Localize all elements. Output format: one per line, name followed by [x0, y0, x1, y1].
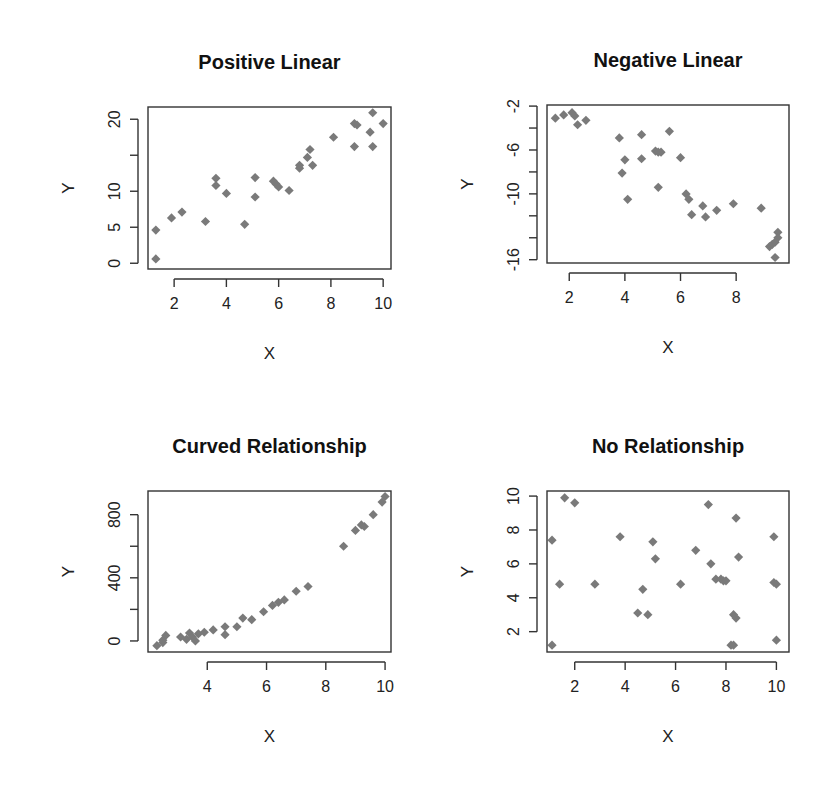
data-point [691, 546, 700, 555]
data-point [251, 192, 260, 201]
panel-title: Positive Linear [198, 51, 340, 73]
data-point [676, 580, 685, 589]
data-point [547, 536, 556, 545]
data-point [251, 173, 260, 182]
data-points [152, 492, 389, 650]
y-tick-label: 0 [106, 259, 123, 268]
y-tick-label: -2 [505, 99, 522, 113]
x-tick-label: 10 [376, 678, 394, 695]
data-point [177, 208, 186, 217]
x-tick-label: 2 [170, 295, 179, 312]
data-point [637, 130, 646, 139]
data-points [547, 493, 781, 650]
data-point [770, 253, 779, 262]
data-point [654, 183, 663, 192]
panel-title: Negative Linear [594, 49, 743, 71]
data-point [220, 630, 229, 639]
data-point [368, 142, 377, 151]
y-tick-label: -16 [505, 248, 522, 271]
data-point [643, 610, 652, 619]
data-points [551, 108, 783, 262]
data-point [222, 189, 231, 198]
data-point [211, 181, 220, 190]
y-tick-label: 5 [106, 223, 123, 232]
data-point [365, 128, 374, 137]
panel-title: Curved Relationship [172, 435, 366, 457]
data-point [151, 254, 160, 263]
x-tick-label: 8 [326, 295, 335, 312]
data-point [350, 142, 359, 151]
data-point [238, 613, 247, 622]
data-point [637, 154, 646, 163]
data-point [167, 213, 176, 222]
x-axis: 46810 [203, 662, 394, 695]
data-point [618, 168, 627, 177]
data-point [559, 110, 568, 119]
x-axis-label: X [264, 344, 275, 363]
data-point [616, 532, 625, 541]
data-point [369, 510, 378, 519]
x-tick-label: 6 [671, 678, 680, 695]
y-axis-label: Y [458, 178, 477, 189]
x-tick-label: 2 [570, 678, 579, 695]
x-tick-label: 8 [732, 289, 741, 306]
x-tick-label: 4 [621, 678, 630, 695]
y-tick-label: 800 [106, 501, 123, 528]
y-tick-label: -10 [505, 182, 522, 205]
data-point [712, 206, 721, 215]
data-point [590, 580, 599, 589]
plot-frame [148, 107, 391, 269]
data-point [555, 580, 564, 589]
x-tick-label: 6 [262, 678, 271, 695]
data-point [560, 493, 569, 502]
y-tick-label: 0 [106, 636, 123, 645]
data-point [734, 552, 743, 561]
x-axis-label: X [662, 727, 673, 746]
x-tick-label: 8 [722, 678, 731, 695]
scatter-panel-1: Positive Linear246810X051020Y [59, 51, 392, 363]
y-axis-label: Y [59, 182, 78, 193]
x-axis: 2468 [565, 273, 741, 306]
data-point [623, 195, 632, 204]
y-axis: 0400800 [106, 501, 138, 645]
y-tick-label: 400 [106, 564, 123, 591]
data-point [638, 585, 647, 594]
y-axis: 051020 [106, 110, 138, 267]
x-axis: 246810 [570, 662, 785, 695]
x-axis-label: X [662, 338, 673, 357]
data-point [339, 542, 348, 551]
scatter-figure: Positive Linear246810X051020YNegative Li… [0, 0, 836, 800]
data-point [284, 186, 293, 195]
x-tick-label: 2 [565, 289, 574, 306]
panel-title: No Relationship [592, 435, 744, 457]
x-axis: 246810 [170, 279, 392, 312]
scatter-panel-3: Curved Relationship46810X0400800Y [59, 435, 394, 746]
y-axis: 246810 [505, 487, 537, 636]
data-point [220, 622, 229, 631]
data-points [151, 108, 388, 263]
y-tick-label: 2 [505, 627, 522, 636]
data-point [232, 622, 241, 631]
data-point [704, 500, 713, 509]
scatter-panel-4: No Relationship246810X246810Y [458, 435, 789, 746]
data-point [368, 108, 377, 117]
y-tick-label: 4 [505, 593, 522, 602]
data-point [329, 133, 338, 142]
data-point [687, 210, 696, 219]
data-point [701, 212, 710, 221]
x-tick-label: 10 [767, 678, 785, 695]
data-point [665, 127, 674, 136]
data-point [731, 514, 740, 523]
y-tick-label: 20 [106, 110, 123, 128]
data-point [648, 537, 657, 546]
y-tick-label: 6 [505, 559, 522, 568]
plot-frame [148, 491, 391, 652]
data-point [551, 114, 560, 123]
data-point [676, 153, 685, 162]
data-point [547, 641, 556, 650]
data-point [633, 608, 642, 617]
data-point [305, 145, 314, 154]
data-point [247, 615, 256, 624]
data-point [581, 116, 590, 125]
x-tick-label: 4 [222, 295, 231, 312]
